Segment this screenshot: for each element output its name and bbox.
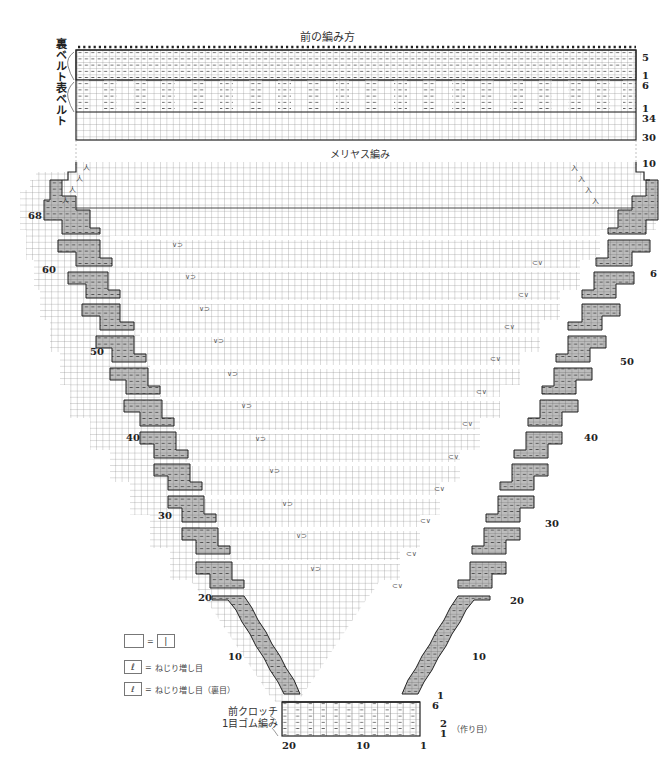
right-row-label-30: 30 bbox=[545, 518, 559, 529]
belt-row-label-34: 34 bbox=[642, 113, 656, 124]
svg-text:⊂∨: ⊂∨ bbox=[434, 485, 445, 493]
svg-text:⊂∨: ⊂∨ bbox=[420, 517, 431, 525]
svg-text:∨⊃: ∨⊃ bbox=[199, 305, 210, 313]
legend-item-knit: = | bbox=[124, 634, 235, 648]
svg-text:⊂∨: ⊂∨ bbox=[462, 420, 473, 428]
left-row-label-50: 50 bbox=[90, 346, 104, 357]
svg-text:⊂∨: ⊂∨ bbox=[504, 323, 515, 331]
twisted-increase-purl-icon: ℓ bbox=[124, 682, 142, 696]
svg-text:人: 人 bbox=[62, 197, 69, 205]
svg-text:入: 入 bbox=[585, 186, 592, 194]
svg-text:∨⊃: ∨⊃ bbox=[310, 565, 321, 573]
svg-text:⊂∨: ⊂∨ bbox=[392, 582, 403, 590]
svg-text:人: 人 bbox=[69, 186, 76, 194]
right-row-label-10: 10 bbox=[642, 158, 656, 169]
legend-equals: = bbox=[145, 663, 152, 672]
blank-cell-icon bbox=[124, 634, 144, 648]
legend-item-twisted-increase: ℓ = ねじり増し目 bbox=[124, 660, 235, 674]
belt-row-label-30: 30 bbox=[642, 132, 656, 143]
svg-text:人: 人 bbox=[76, 175, 83, 183]
svg-text:入: 入 bbox=[578, 175, 585, 183]
crotch-col-label-1: 1 bbox=[420, 740, 427, 751]
belt-row-label-5: 5 bbox=[642, 52, 649, 63]
left-row-label-60: 60 bbox=[42, 264, 56, 275]
svg-text:⊂∨: ⊂∨ bbox=[476, 388, 487, 396]
legend-equals: = bbox=[147, 637, 154, 646]
crotch-title: 前クロッチ 1目ゴム編み bbox=[222, 706, 278, 730]
svg-text:入: 入 bbox=[571, 164, 578, 172]
right-row-label-10: 10 bbox=[472, 651, 486, 662]
right-row-label-6x: 6 bbox=[650, 268, 657, 279]
crotch-col-label-20: 20 bbox=[282, 740, 296, 751]
crotch-title-line1: 前クロッチ bbox=[222, 706, 278, 718]
knit-stitch-icon: | bbox=[157, 634, 175, 648]
svg-text:入: 入 bbox=[592, 197, 599, 205]
svg-text:∨⊃: ∨⊃ bbox=[296, 532, 307, 540]
svg-text:⊂∨: ⊂∨ bbox=[490, 355, 501, 363]
legend-text: ねじり増し目（裏目） bbox=[155, 684, 235, 695]
right-row-label-40: 40 bbox=[584, 432, 598, 443]
left-row-label-40: 40 bbox=[126, 432, 140, 443]
svg-text:⊂∨: ⊂∨ bbox=[518, 291, 529, 299]
left-row-label-68: 68 bbox=[28, 210, 42, 221]
right-row-label-6: 6 bbox=[432, 700, 439, 711]
svg-text:∨⊃: ∨⊃ bbox=[172, 241, 183, 249]
legend-text: ねじり増し目 bbox=[155, 662, 203, 673]
left-row-label-30: 30 bbox=[158, 510, 172, 521]
legend-equals: = bbox=[145, 685, 152, 694]
knitting-chart: ∨⊃ ∨⊃ ∨⊃ ∨⊃ ∨⊃ ∨⊃ ∨⊃ ∨⊃ ∨⊃ ∨⊃ ∨⊃ ⊂∨ ⊂∨ ⊂… bbox=[0, 0, 662, 776]
right-row-label-50: 50 bbox=[620, 356, 634, 367]
cast-on-label: （作り目） bbox=[452, 723, 492, 734]
svg-text:∨⊃: ∨⊃ bbox=[255, 435, 266, 443]
legend: = | ℓ = ねじり増し目 ℓ = ねじり増し目（裏目） bbox=[124, 634, 235, 696]
svg-text:⊂∨: ⊂∨ bbox=[532, 259, 543, 267]
svg-text:⊂∨: ⊂∨ bbox=[448, 453, 459, 461]
svg-text:人: 人 bbox=[83, 164, 90, 172]
svg-text:∨⊃: ∨⊃ bbox=[185, 273, 196, 281]
left-row-label-20: 20 bbox=[198, 592, 212, 603]
crotch-title-line2: 1目ゴム編み bbox=[222, 718, 278, 730]
crotch-col-label-10: 10 bbox=[356, 740, 370, 751]
legend-item-twisted-increase-purl: ℓ = ねじり増し目（裏目） bbox=[124, 682, 235, 696]
cast-on-row-1: 1 bbox=[440, 728, 447, 739]
svg-text:∨⊃: ∨⊃ bbox=[269, 467, 280, 475]
svg-text:∨⊃: ∨⊃ bbox=[282, 500, 293, 508]
svg-text:∨⊃: ∨⊃ bbox=[241, 402, 252, 410]
svg-text:∨⊃: ∨⊃ bbox=[213, 337, 224, 345]
belt-row-label-6: 6 bbox=[642, 80, 649, 91]
svg-text:⊂∨: ⊂∨ bbox=[406, 550, 417, 558]
svg-text:∨⊃: ∨⊃ bbox=[227, 370, 238, 378]
twisted-increase-icon: ℓ bbox=[124, 660, 142, 674]
body-title: メリヤス編み bbox=[330, 146, 390, 161]
right-row-label-20: 20 bbox=[510, 595, 524, 606]
